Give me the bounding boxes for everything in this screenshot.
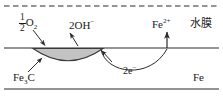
hydroxide-arrow	[70, 33, 78, 46]
hydroxide-text: 2OH	[69, 19, 90, 31]
fraction-numerator: 1	[19, 13, 26, 23]
cementite-label: Fe3C	[13, 72, 35, 83]
water-film-label: 水膜	[190, 18, 212, 29]
cementite-c: C	[28, 71, 35, 83]
oxygen-subscript: 2	[34, 23, 38, 31]
ferrous-charge: 2+	[163, 17, 170, 25]
electron-label: 2e−	[123, 66, 136, 76]
ferrous-text: Fe	[152, 18, 163, 30]
oxygen-label: 12O2	[19, 13, 37, 34]
cementite-pointer-arrow	[28, 58, 42, 72]
corrosion-diagram: 12O2 2OH− Fe2+ 水膜 Fe3C 2e− Fe	[0, 0, 223, 97]
iron-label: Fe	[193, 72, 204, 83]
fraction-denominator: 2	[19, 24, 26, 34]
hydroxide-label: 2OH−	[69, 20, 94, 31]
ferrous-ion-label: Fe2+	[152, 19, 170, 30]
hydroxide-charge: −	[90, 18, 94, 26]
cementite-shaded-region	[33, 49, 103, 61]
one-half-fraction: 12	[19, 13, 26, 34]
electron-charge: −	[132, 64, 136, 72]
cementite-fe: Fe	[13, 71, 24, 83]
oxygen-species: O	[26, 16, 34, 28]
